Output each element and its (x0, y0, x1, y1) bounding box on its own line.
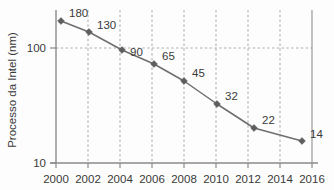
data-point-180[interactable] (58, 18, 65, 25)
data-point-130[interactable] (86, 29, 93, 36)
data-label-90: 90 (130, 46, 143, 58)
x-tick-label-2000: 2000 (43, 173, 69, 185)
x-tick-label-2016: 2016 (299, 173, 325, 185)
data-label-14: 14 (310, 128, 323, 140)
data-label-45: 45 (192, 67, 205, 79)
y-axis-ticks (50, 48, 56, 163)
x-tick-label-2014: 2014 (267, 173, 293, 185)
data-label-130: 130 (97, 19, 116, 31)
chart-container: 100 10 2000 2002 2004 2006 2008 2010 201… (0, 0, 334, 190)
y-tick-label-10: 10 (33, 157, 46, 169)
vertical-gridlines (88, 10, 280, 163)
data-label-180: 180 (69, 7, 88, 19)
x-tick-label-2008: 2008 (171, 173, 197, 185)
x-tick-label-2010: 2010 (203, 173, 229, 185)
data-label-65: 65 (162, 50, 175, 62)
x-tick-label-2006: 2006 (139, 173, 165, 185)
data-label-32: 32 (225, 90, 238, 102)
x-axis-ticks (56, 163, 312, 168)
data-point-labels: 180 130 90 65 45 32 22 14 (69, 7, 323, 140)
x-tick-label-2002: 2002 (75, 173, 101, 185)
data-label-22: 22 (262, 114, 275, 126)
y-tick-label-100: 100 (27, 42, 46, 54)
x-tick-label-2012: 2012 (235, 173, 261, 185)
data-point-14[interactable] (299, 138, 306, 145)
line-chart: 100 10 2000 2002 2004 2006 2008 2010 201… (0, 0, 334, 190)
x-tick-label-2004: 2004 (107, 173, 133, 185)
y-axis-title: Processo da Intel (nm) (6, 32, 18, 148)
data-point-65[interactable] (151, 61, 158, 68)
